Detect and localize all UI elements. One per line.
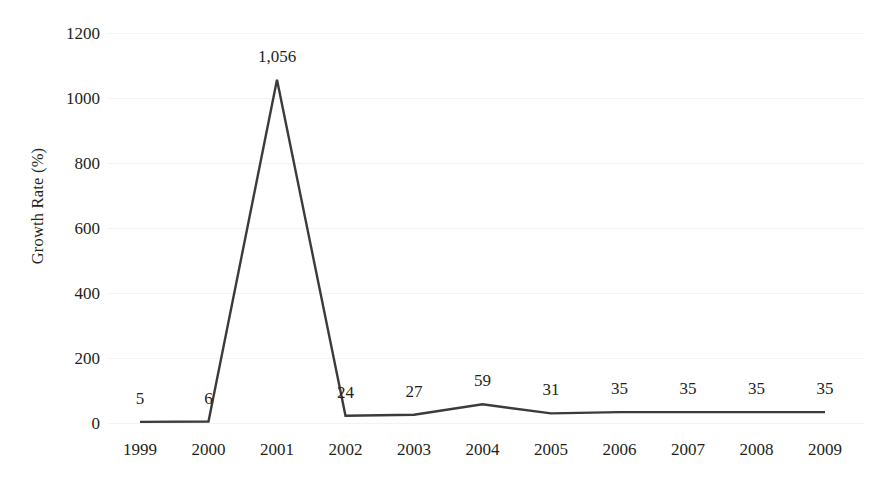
plot-area bbox=[0, 0, 872, 485]
x-tick-label: 2005 bbox=[534, 441, 568, 458]
x-tick-label: 2004 bbox=[466, 441, 500, 458]
line-series-svg bbox=[0, 0, 872, 485]
data-point-label: 35 bbox=[611, 380, 628, 397]
x-tick-label: 2008 bbox=[740, 441, 774, 458]
x-tick-label: 1999 bbox=[123, 441, 157, 458]
data-point-label: 35 bbox=[817, 380, 834, 397]
x-tick-label: 2007 bbox=[671, 441, 705, 458]
chart-figure: Growth Rate (%) 1200 1000 800 600 400 20… bbox=[0, 0, 872, 485]
data-point-label: 6 bbox=[204, 390, 213, 407]
data-point-label: 31 bbox=[543, 381, 560, 398]
data-point-label: 59 bbox=[474, 372, 491, 389]
data-point-label: 5 bbox=[136, 390, 145, 407]
x-tick-label: 2009 bbox=[808, 441, 842, 458]
x-tick-label: 2002 bbox=[329, 441, 363, 458]
data-point-label: 1,056 bbox=[258, 48, 296, 65]
x-tick-label: 2006 bbox=[603, 441, 637, 458]
data-point-label: 24 bbox=[337, 384, 354, 401]
x-tick-label: 2001 bbox=[260, 441, 294, 458]
x-tick-label: 2003 bbox=[397, 441, 431, 458]
data-point-label: 27 bbox=[406, 383, 423, 400]
data-point-label: 35 bbox=[680, 380, 697, 397]
x-tick-label: 2000 bbox=[192, 441, 226, 458]
data-point-label: 35 bbox=[748, 380, 765, 397]
